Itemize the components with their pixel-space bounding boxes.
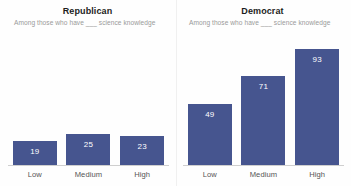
bar-value-label: 49 xyxy=(205,104,214,119)
axis-label-low: Low xyxy=(8,170,61,184)
bar-slot-high: 23 xyxy=(116,40,169,165)
bar-slot-medium: 25 xyxy=(62,40,115,165)
bar-republican-high[interactable]: 23 xyxy=(120,136,164,165)
panel-republican-title: Republican xyxy=(0,6,175,16)
panel-republican-plot: 19 25 23 xyxy=(0,40,175,166)
bar-value-label: 25 xyxy=(84,134,93,149)
bar-republican-low[interactable]: 19 xyxy=(13,141,57,165)
panel-republican: Republican Among those who have ___ scie… xyxy=(0,0,175,186)
bar-value-label: 93 xyxy=(312,49,321,64)
bar-democrat-medium[interactable]: 71 xyxy=(241,76,285,165)
panel-republican-bars: 19 25 23 xyxy=(8,40,169,165)
panel-democrat-plot: 49 71 93 xyxy=(175,40,350,166)
bar-democrat-low[interactable]: 49 xyxy=(188,104,232,165)
panel-republican-axis-labels: Low Medium High xyxy=(8,170,169,184)
panel-democrat-title: Democrat xyxy=(175,6,350,16)
bar-slot-low: 49 xyxy=(183,40,236,165)
bar-slot-high: 93 xyxy=(291,40,344,165)
bar-value-label: 71 xyxy=(259,76,268,91)
panel-democrat-subtitle: Among those who have ___ science knowled… xyxy=(189,19,342,28)
panel-democrat: Democrat Among those who have ___ scienc… xyxy=(175,0,350,186)
x-axis-line xyxy=(8,165,169,166)
panel-democrat-axis-labels: Low Medium High xyxy=(183,170,344,184)
axis-label-low: Low xyxy=(183,170,236,184)
bar-republican-medium[interactable]: 25 xyxy=(66,134,110,165)
axis-label-medium: Medium xyxy=(62,170,115,184)
panel-democrat-bars: 49 71 93 xyxy=(183,40,344,165)
grouped-bar-chart: Republican Among those who have ___ scie… xyxy=(0,0,351,186)
bar-slot-medium: 71 xyxy=(237,40,290,165)
bar-value-label: 19 xyxy=(30,141,39,156)
bar-value-label: 23 xyxy=(137,136,146,151)
bar-democrat-high[interactable]: 93 xyxy=(295,49,339,165)
panel-republican-subtitle: Among those who have ___ science knowled… xyxy=(14,19,167,28)
axis-label-medium: Medium xyxy=(237,170,290,184)
axis-label-high: High xyxy=(116,170,169,184)
bar-slot-low: 19 xyxy=(8,40,61,165)
x-axis-line xyxy=(183,165,344,166)
axis-label-high: High xyxy=(291,170,344,184)
